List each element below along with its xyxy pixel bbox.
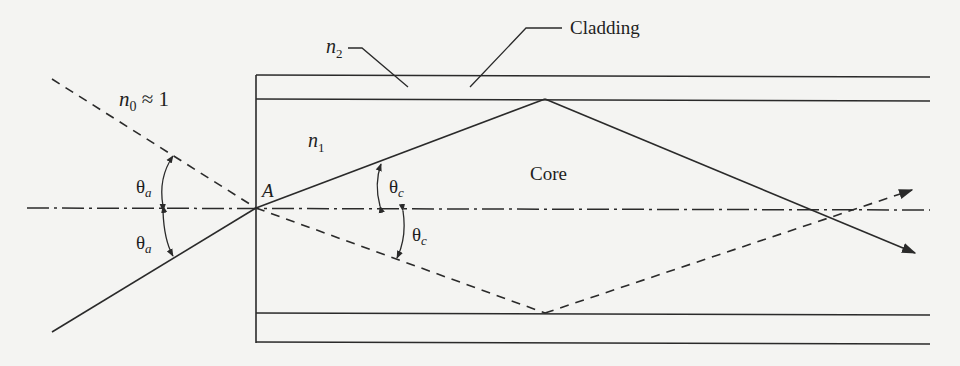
incident-ray — [52, 208, 256, 332]
reflected-ray — [545, 99, 915, 253]
theta-c-lower-arc — [397, 211, 404, 258]
label-point-a: A — [260, 180, 274, 201]
core-bottom-boundary — [256, 313, 930, 315]
theta-c-upper-arc — [377, 164, 381, 206]
label-n1: n1 — [308, 129, 325, 155]
n2-leader — [348, 48, 408, 87]
label-n0: n0 ≈ 1 — [119, 87, 169, 114]
label-core: Core — [530, 163, 567, 184]
refracted-ray-dashed — [256, 208, 545, 313]
label-theta-a-upper: θa — [136, 176, 152, 200]
label-theta-c-upper: θc — [389, 176, 404, 200]
cladding-top-outer — [256, 75, 930, 77]
guided-ray — [52, 99, 915, 332]
leader-lines — [348, 28, 562, 87]
label-theta-a-lower: θa — [136, 232, 152, 256]
reflected-ray-dashed — [545, 190, 912, 313]
label-n2: n2 — [326, 35, 343, 61]
theta-a-upper-arc — [162, 156, 173, 206]
fiber-optic-diagram: n0 ≈ 1 n1 n2 Cladding Core A θa θa θc θc — [0, 0, 960, 366]
core-top-boundary — [256, 99, 930, 101]
label-cladding: Cladding — [570, 17, 640, 38]
cladding-bottom-outer — [256, 342, 930, 344]
cladding-leader — [470, 28, 562, 87]
label-theta-c-lower: θc — [412, 224, 427, 248]
theta-a-lower-arc — [163, 211, 173, 256]
acceptance-angle-arcs — [162, 156, 173, 256]
symmetric-ray — [52, 79, 912, 313]
fiber-axis — [27, 208, 930, 210]
